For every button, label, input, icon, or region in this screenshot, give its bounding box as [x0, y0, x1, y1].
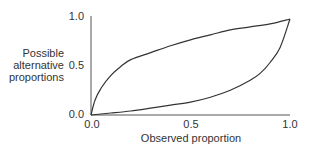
x-axis-label: Observed proportion	[141, 132, 241, 144]
y-tick-1: 1.0	[69, 10, 84, 22]
y-label-line-3: proportions	[9, 71, 65, 83]
x-tick-labels: 0.0 0.5 1.0	[84, 118, 297, 130]
series-layer	[91, 19, 290, 115]
x-tick-1: 1.0	[282, 118, 297, 130]
y-axis-label: Possible alternative proportions	[9, 47, 65, 83]
x-tick-0-5: 0.5	[183, 118, 198, 130]
y-tick-labels: 1.0 0.5 0.0	[69, 10, 84, 120]
x-tick-0: 0.0	[84, 118, 99, 130]
chart: 1.0 0.5 0.0 0.0 0.5 1.0 Possible alterna…	[0, 0, 309, 152]
y-tick-0: 0.0	[69, 108, 84, 120]
y-tick-0-5: 0.5	[69, 59, 84, 71]
upper-curve	[91, 19, 290, 115]
y-label-line-1: Possible	[22, 47, 64, 59]
y-label-line-2: alternative	[13, 59, 64, 71]
